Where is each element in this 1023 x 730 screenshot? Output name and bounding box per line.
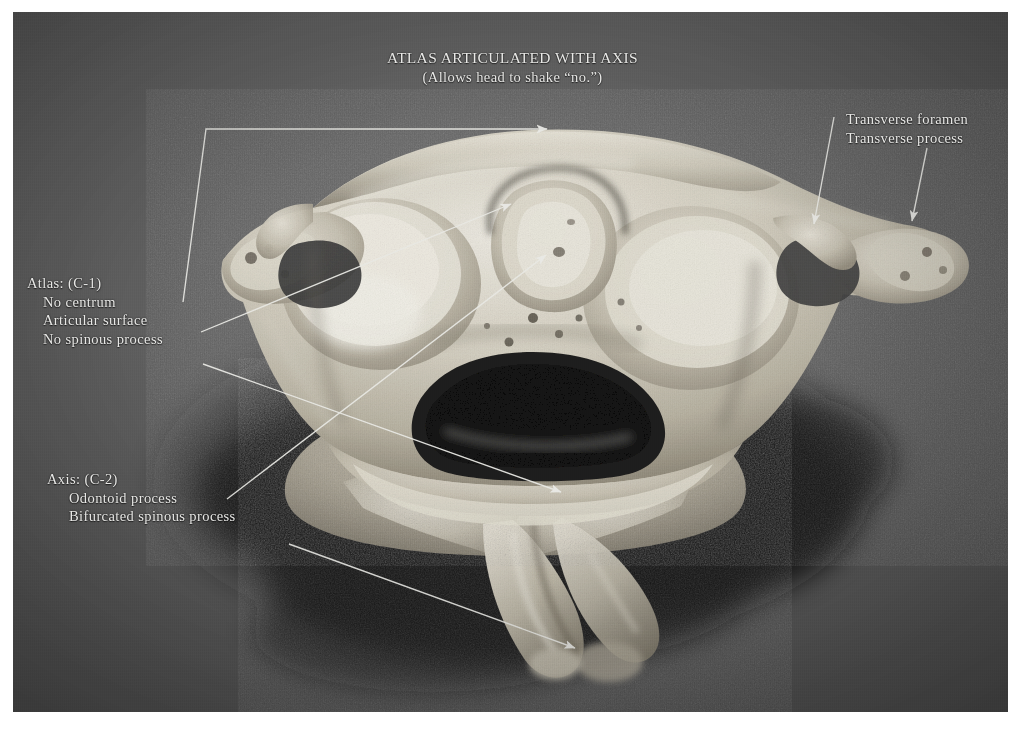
atlas-item-articular-surface: Articular surface [27, 311, 163, 330]
figure-subtitle: (Allows head to shake “no.”) [387, 68, 638, 87]
atlas-heading: Atlas: (C-1) [27, 274, 163, 293]
label-transverse-process: Transverse process [846, 129, 968, 148]
axis-item-bifurcated-spinous-process: Bifurcated spinous process [47, 507, 236, 526]
anatomy-photograph: ATLAS ARTICULATED WITH AXIS (Allows head… [13, 12, 1008, 712]
atlas-label-block: Atlas: (C-1) No centrum Articular surfac… [27, 274, 163, 348]
figure-title: ATLAS ARTICULATED WITH AXIS [387, 48, 638, 68]
figure-page: ATLAS ARTICULATED WITH AXIS (Allows head… [0, 0, 1023, 730]
axis-heading: Axis: (C-2) [47, 470, 236, 489]
atlas-item-no-spinous-process: No spinous process [27, 330, 163, 349]
label-transverse-foramen: Transverse foramen [846, 110, 968, 129]
axis-item-odontoid-process: Odontoid process [47, 489, 236, 508]
axis-label-block: Axis: (C-2) Odontoid process Bifurcated … [47, 470, 236, 526]
atlas-item-no-centrum: No centrum [27, 293, 163, 312]
figure-title-block: ATLAS ARTICULATED WITH AXIS (Allows head… [387, 48, 638, 86]
right-label-block: Transverse foramen Transverse process [846, 110, 968, 147]
